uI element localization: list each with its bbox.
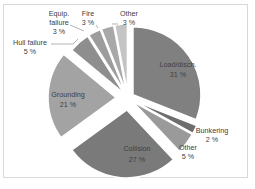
label-load-pct: 31 % bbox=[170, 70, 187, 79]
label-grounding-pct: 21 % bbox=[60, 100, 77, 109]
label-bunkering-name: Bunkering bbox=[196, 126, 228, 135]
label-fire-pct: 3 % bbox=[82, 18, 95, 27]
label-other-top-pct: 3 % bbox=[123, 18, 136, 27]
label-other-bottom-name: Other bbox=[179, 143, 198, 152]
label-collision-name: Collision bbox=[123, 144, 150, 153]
label-bunkering-pct: 2 % bbox=[206, 135, 219, 144]
label-equip-name-2: failure bbox=[49, 18, 69, 27]
pie-chart: Load/disch. 31 % Collision 27 % Groundin… bbox=[0, 0, 255, 189]
label-load-name: Load/disch. bbox=[160, 60, 197, 69]
label-hull-pct: 5 % bbox=[24, 47, 37, 56]
label-equip-name-1: Equip. bbox=[49, 9, 69, 18]
label-fire-name: Fire bbox=[82, 9, 94, 18]
label-other-bottom-pct: 5 % bbox=[182, 152, 195, 161]
leader-line-fire bbox=[96, 25, 98, 28]
leader-line-hull bbox=[51, 39, 78, 44]
label-grounding-name: Grounding bbox=[51, 90, 85, 99]
label-other-top-name: Other bbox=[120, 9, 139, 18]
label-hull-name: Hull failure bbox=[13, 38, 47, 47]
label-collision-pct: 27 % bbox=[129, 155, 146, 164]
label-equip-pct: 3 % bbox=[53, 27, 66, 36]
